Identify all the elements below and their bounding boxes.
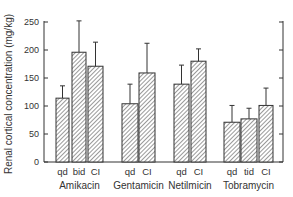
bar-label: tid <box>244 166 254 177</box>
y-tick-label: 0 <box>34 157 39 167</box>
bar-tobramycin-tid <box>241 119 257 162</box>
y-axis-label: Renal cortical concentration (mg/kg) <box>3 14 14 174</box>
bar-label: CI <box>194 166 204 177</box>
y-tick-label: 50 <box>29 129 39 139</box>
bar-label: CI <box>261 166 271 177</box>
y-axis-title: Renal cortical concentration (mg/kg) <box>3 14 14 174</box>
bar-label: bid <box>73 166 86 177</box>
y-tick-label: 100 <box>24 101 39 111</box>
bar-label: qd <box>176 166 187 177</box>
bar-gentamicin-qd <box>122 104 138 162</box>
bar-label: CI <box>142 166 152 177</box>
bar-label: qd <box>227 166 238 177</box>
group-label: Netilmicin <box>168 180 211 191</box>
bar-amikacin-bid <box>72 52 86 162</box>
y-tick-label: 200 <box>24 45 39 55</box>
bar-tobramycin-qd <box>224 122 240 162</box>
group-label: Gentamicin <box>113 180 164 191</box>
bars <box>56 21 273 162</box>
category-labels: qdbidCIAmikacinqdCIGentamicinqdCINetilmi… <box>57 166 274 191</box>
group-label: Amikacin <box>59 180 100 191</box>
bar-amikacin-ci <box>88 66 103 162</box>
y-tick-label: 250 <box>24 17 39 27</box>
bar-tobramycin-ci <box>259 105 273 162</box>
bar-label: CI <box>91 166 101 177</box>
bar-chart: Renal cortical concentration (mg/kg) 050… <box>0 0 293 197</box>
bar-netilmicin-ci <box>191 61 206 162</box>
bar-label: qd <box>125 166 136 177</box>
group-label: Tobramycin <box>223 180 274 191</box>
bar-netilmicin-qd <box>174 84 189 162</box>
bar-label: qd <box>57 166 68 177</box>
bar-amikacin-qd <box>56 98 69 162</box>
y-tick-label: 150 <box>24 73 39 83</box>
bar-gentamicin-ci <box>139 73 155 162</box>
